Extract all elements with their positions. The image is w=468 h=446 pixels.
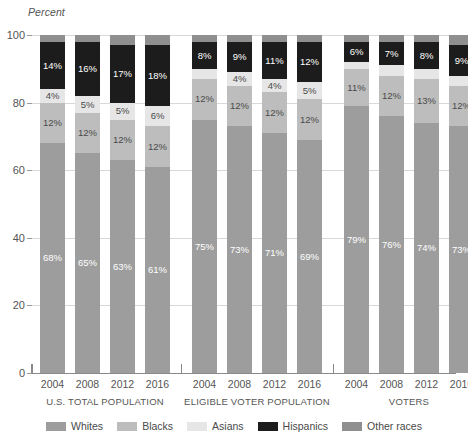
legend-swatch-icon — [258, 422, 278, 431]
legend-swatch-icon — [342, 422, 362, 431]
segment-value-label: 63% — [113, 262, 132, 272]
bar-segment-other-races — [297, 35, 322, 42]
segment-value-label: 73% — [230, 245, 249, 255]
bar-2004[interactable]: 79%11%6% — [344, 35, 369, 373]
x-tick-label-2008: 2008 — [68, 378, 108, 390]
legend-item-blacks[interactable]: Blacks — [117, 420, 173, 432]
bar-segment-whites: 79% — [344, 106, 369, 373]
bar-segment-whites: 74% — [414, 123, 439, 373]
bar-2008[interactable]: 76%12%7% — [379, 35, 404, 373]
segment-value-label: 12% — [300, 115, 319, 125]
y-tick-mark-40 — [27, 238, 32, 239]
bar-group: 68%12%4%14%65%12%5%16%63%12%5%17%61%12%6… — [40, 35, 170, 373]
segment-value-label: 6% — [151, 111, 165, 121]
bar-segment-asians: 6% — [145, 106, 170, 126]
bar-segment-other-races — [414, 35, 439, 42]
segment-value-label: 12% — [382, 91, 401, 101]
x-tick-label-2012: 2012 — [255, 378, 295, 390]
legend-item-asians[interactable]: Asians — [187, 420, 244, 432]
legend-label: Whites — [71, 420, 103, 432]
bar-segment-asians — [192, 69, 217, 79]
bar-segment-asians: 5% — [110, 103, 135, 120]
bar-segment-other-races — [110, 35, 135, 45]
bar-segment-whites: 73% — [227, 126, 252, 373]
axis-end-tick-left — [32, 364, 33, 373]
legend-item-whites[interactable]: Whites — [46, 420, 103, 432]
segment-value-label: 71% — [265, 248, 284, 258]
bar-segment-asians: 4% — [227, 72, 252, 86]
bar-segment-blacks: 12% — [227, 86, 252, 127]
bar-segment-hispanics: 6% — [344, 42, 369, 62]
segment-value-label: 17% — [113, 69, 132, 79]
bar-segment-other-races — [379, 35, 404, 42]
bar-2012[interactable]: 74%13%8% — [414, 35, 439, 373]
segment-value-label: 8% — [198, 51, 212, 61]
bar-2012[interactable]: 71%12%4%11% — [262, 35, 287, 373]
bar-segment-hispanics: 9% — [449, 45, 468, 75]
y-tick-label-80: 80 — [13, 97, 25, 109]
bar-segment-asians — [414, 69, 439, 79]
bar-segment-blacks: 13% — [414, 79, 439, 123]
x-axis-baseline — [32, 373, 456, 374]
x-tick-label-2016: 2016 — [138, 378, 178, 390]
bar-segment-blacks: 12% — [110, 120, 135, 161]
bar-segment-whites: 73% — [449, 126, 468, 373]
group-separator-tick — [181, 364, 182, 373]
legend-swatch-icon — [187, 422, 207, 431]
bar-2012[interactable]: 63%12%5%17% — [110, 35, 135, 373]
segment-value-label: 73% — [452, 245, 468, 255]
bar-2016[interactable]: 73%12%9% — [449, 35, 468, 373]
x-tick-label-2012: 2012 — [103, 378, 143, 390]
group-label: ELIGIBLE VOTER POPULATION — [184, 396, 330, 407]
segment-value-label: 9% — [233, 52, 247, 62]
bar-segment-blacks: 12% — [297, 99, 322, 140]
bar-2016[interactable]: 69%12%5%12% — [297, 35, 322, 373]
y-tick-label-0: 0 — [19, 367, 25, 379]
legend-item-other-races[interactable]: Other races — [342, 420, 422, 432]
chart-legend: WhitesBlacksAsiansHispanicsOther races — [0, 420, 468, 432]
segment-value-label: 79% — [347, 235, 366, 245]
bar-segment-asians — [379, 65, 404, 75]
stacked-bar-chart: Percent 02040608010068%12%4%14%65%12%5%1… — [0, 0, 468, 446]
segment-value-label: 12% — [78, 128, 97, 138]
y-tick-mark-20 — [27, 305, 32, 306]
bar-2004[interactable]: 75%12%8% — [192, 35, 217, 373]
y-tick-mark-80 — [27, 103, 32, 104]
x-tick-label-2016: 2016 — [290, 378, 330, 390]
y-tick-label-40: 40 — [13, 232, 25, 244]
segment-value-label: 68% — [43, 253, 62, 263]
bar-segment-hispanics: 18% — [145, 45, 170, 106]
x-tick-label-2004: 2004 — [185, 378, 225, 390]
segment-value-label: 11% — [347, 83, 365, 93]
x-tick-label-2004: 2004 — [337, 378, 377, 390]
segment-value-label: 5% — [303, 86, 317, 96]
legend-item-hispanics[interactable]: Hispanics — [258, 420, 329, 432]
bar-2016[interactable]: 61%12%6%18% — [145, 35, 170, 373]
x-tick-label-2008: 2008 — [220, 378, 260, 390]
segment-value-label: 14% — [43, 61, 62, 71]
y-tick-mark-100 — [27, 35, 32, 36]
segment-value-label: 12% — [148, 142, 167, 152]
y-axis-title: Percent — [28, 6, 65, 18]
bar-segment-hispanics: 9% — [227, 42, 252, 72]
bar-segment-blacks: 12% — [145, 126, 170, 167]
bar-2008[interactable]: 73%12%4%9% — [227, 35, 252, 373]
bar-segment-other-races — [145, 35, 170, 45]
x-tick-label-2012: 2012 — [407, 378, 447, 390]
legend-swatch-icon — [46, 422, 66, 431]
bar-segment-blacks: 12% — [262, 92, 287, 133]
bar-segment-whites: 65% — [75, 153, 100, 373]
bar-2004[interactable]: 68%12%4%14% — [40, 35, 65, 373]
bar-2008[interactable]: 65%12%5%16% — [75, 35, 100, 373]
bar-segment-asians: 5% — [297, 82, 322, 99]
bar-segment-other-races — [449, 35, 468, 45]
legend-label: Other races — [367, 420, 422, 432]
bar-segment-other-races — [75, 35, 100, 42]
bar-segment-asians — [344, 62, 369, 69]
segment-value-label: 61% — [148, 265, 167, 275]
segment-value-label: 74% — [417, 243, 436, 253]
bar-segment-blacks: 12% — [379, 76, 404, 117]
bar-segment-whites: 68% — [40, 143, 65, 373]
group-label: VOTERS — [389, 396, 429, 407]
segment-value-label: 12% — [300, 57, 319, 67]
